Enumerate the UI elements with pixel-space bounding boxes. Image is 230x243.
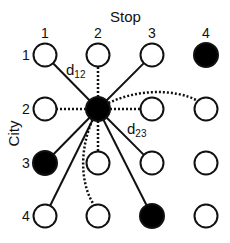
empty-node-city3-stop3 [141,152,164,175]
row-label-1: 1 [22,48,30,62]
network-graph [0,0,230,243]
edge-label-d23: d23 [127,121,146,141]
column-label-3: 3 [148,26,156,40]
empty-node-city1-stop1 [34,44,57,67]
y-axis-title: City [6,119,21,149]
empty-node-city2-stop3 [141,98,164,121]
filled-node-city3-stop1 [33,151,57,175]
empty-node-city4-stop1 [34,205,57,228]
x-axis-title: Stop [110,9,141,24]
row-label-3: 3 [22,156,30,170]
column-label-2: 2 [94,26,102,40]
edge-label-subscript: 12 [74,69,85,80]
empty-node-city4-stop4 [195,205,218,228]
empty-node-city1-stop2 [87,44,110,67]
row-label-4: 4 [22,209,30,223]
empty-node-city2-stop4 [195,98,218,121]
edge-label-d12: d12 [66,62,85,82]
empty-node-city2-stop1 [34,98,57,121]
empty-node-city4-stop2 [87,205,110,228]
filled-node-city2-stop2 [86,97,110,121]
empty-node-city3-stop4 [195,152,218,175]
empty-node-city1-stop3 [141,44,164,67]
edge-label-subscript: 23 [135,128,146,139]
filled-node-city1-stop4 [194,43,218,67]
column-label-4: 4 [202,26,210,40]
row-label-2: 2 [22,102,30,116]
diagram: Stop 1 2 3 4 1 2 3 4 City d12 d23 [0,0,230,243]
column-label-1: 1 [41,26,49,40]
empty-node-city3-stop2 [87,152,110,175]
filled-node-city4-stop3 [140,204,164,228]
